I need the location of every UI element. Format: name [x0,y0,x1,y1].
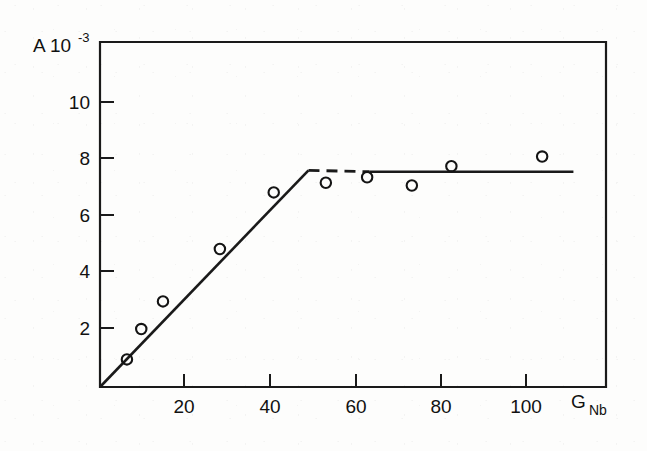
y-axis-label-main: A 10 [33,35,71,56]
plot-frame [100,42,606,387]
data-point [321,178,331,188]
data-point [269,187,279,197]
data-point [158,296,168,306]
data-point [215,244,225,254]
data-point [446,161,456,171]
y-tick-label-8: 8 [79,148,90,169]
x-tick-label-40: 40 [259,396,280,417]
x-axis-label: G Nb [571,391,607,418]
fit-line-dashed-segment [308,170,369,171]
y-axis-ticks [100,102,114,328]
y-tick-label-2: 2 [79,318,90,339]
x-axis-ticks [184,374,526,387]
data-point [362,172,372,182]
y-tick-label-10: 10 [69,92,90,113]
y-axis-tick-labels: 10 8 6 4 2 [69,92,91,339]
x-tick-label-60: 60 [345,396,366,417]
y-axis-label-superscript: -3 [78,30,90,45]
y-tick-label-6: 6 [79,205,90,226]
data-point-markers [122,151,548,364]
figure-canvas: 10 8 6 4 2 20 40 60 80 100 A 10 -3 [0,0,647,451]
x-tick-label-80: 80 [430,396,451,417]
y-axis-label: A 10 -3 [33,30,90,56]
y-tick-label-4: 4 [79,261,90,282]
data-point [537,151,547,161]
fit-line-rising-segment [100,170,308,387]
data-point [136,324,146,334]
x-axis-tick-labels: 20 40 60 80 100 [173,396,541,417]
x-axis-label-subscript: Nb [589,402,607,418]
x-tick-label-20: 20 [173,396,194,417]
data-point [407,180,417,190]
x-axis-label-main: G [571,391,586,412]
chart-svg: 10 8 6 4 2 20 40 60 80 100 A 10 -3 [0,0,647,451]
x-tick-label-100: 100 [510,396,542,417]
